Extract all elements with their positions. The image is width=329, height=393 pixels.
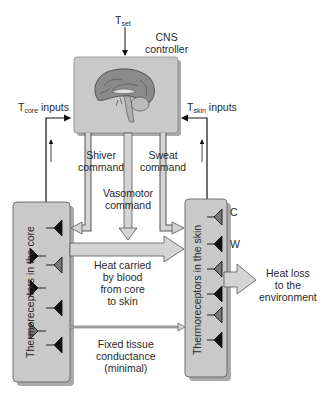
core-compartment-box [13, 202, 74, 386]
diagram-canvas [0, 0, 329, 393]
shiver-command-label: Shivercommand [78, 149, 124, 173]
conductance-label: Fixed tissueconductance(minimal) [96, 338, 156, 374]
core-compartment-label: Thermoreceptors in the core [24, 212, 36, 372]
heat-loss-label: Heat lossto theenvironment [259, 267, 317, 303]
setpoint-label: Tset [115, 14, 131, 30]
cold-receptor-label: C [230, 206, 238, 218]
blood-heat-label: Heat carriedby bloodfrom coreto skin [94, 259, 151, 307]
cns-controller-title: CNScontroller [145, 31, 188, 55]
warm-receptor-label: W [230, 238, 240, 250]
core-inputs-label: Tcore inputs [18, 101, 69, 117]
sweat-command-label: Sweatcommand [140, 149, 186, 173]
vasomotor-command-label: Vasomotorcommand [103, 187, 153, 211]
skin-compartment-label: Thermoreceptors in the skin [191, 210, 203, 370]
skin-inputs-label: Tskin inputs [187, 101, 237, 117]
conductance-arrow [70, 323, 185, 331]
